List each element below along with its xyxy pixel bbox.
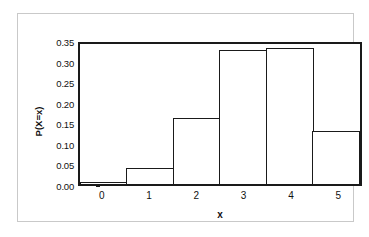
bar-series (80, 44, 360, 184)
y-axis-title-text: P(X=x) (34, 106, 45, 136)
x-axis-tick-label: 5 (315, 190, 362, 201)
chart-figure: 0.350.300.250.200.150.100.050.00 P(X=x) … (0, 0, 369, 237)
y-axis-tick-label: 0.05 (56, 160, 74, 171)
y-axis-tick-mark (96, 186, 100, 187)
chart-outer-frame: 0.350.300.250.200.150.100.050.00 P(X=x) … (17, 13, 354, 222)
x-axis-tick-label: 0 (78, 190, 125, 201)
y-axis-tick-label: 0.25 (56, 78, 74, 89)
y-axis-tick-label: 0.35 (56, 37, 74, 48)
y-axis-tick-label: 0.10 (56, 139, 74, 150)
x-axis-tick-label: 1 (125, 190, 172, 201)
x-axis-tick-label: 4 (267, 190, 314, 201)
y-axis-tick-label: 0.30 (56, 57, 74, 68)
bar (173, 118, 221, 184)
bar (266, 48, 314, 184)
bar (80, 182, 128, 184)
x-axis-title: x (78, 209, 362, 220)
bar (219, 50, 267, 184)
y-axis-title: P(X=x) (32, 86, 46, 156)
x-axis-tick-label: 3 (220, 190, 267, 201)
y-axis-tick-label: 0.00 (56, 181, 74, 192)
x-axis-tick-label: 2 (173, 190, 220, 201)
y-axis-tick-label: 0.15 (56, 119, 74, 130)
plot-area (78, 42, 362, 186)
bar (312, 131, 360, 184)
y-axis-tick-label: 0.20 (56, 98, 74, 109)
bar (126, 168, 174, 184)
x-axis-tick-labels: 012345 (78, 190, 362, 201)
